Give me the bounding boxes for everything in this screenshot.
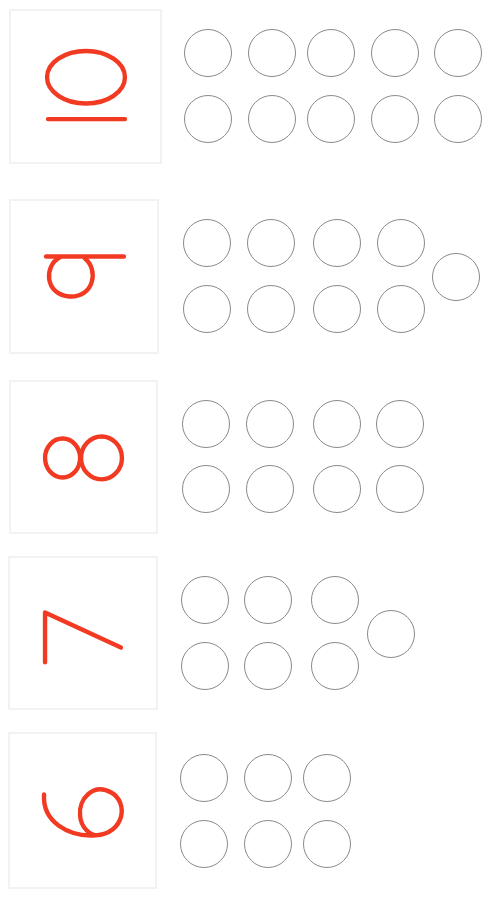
counting-circle (311, 642, 359, 690)
counting-circle (248, 29, 296, 77)
counting-circle (371, 29, 419, 77)
counting-circle (246, 465, 294, 513)
counting-circle (246, 400, 294, 448)
number-card-8: 8 (9, 380, 158, 534)
counting-circle (181, 642, 229, 690)
counting-circle (180, 754, 228, 802)
counting-circle (303, 820, 351, 868)
counting-circle (434, 95, 482, 143)
counting-circle (377, 219, 425, 267)
counting-circle (184, 95, 232, 143)
counting-circle (181, 576, 229, 624)
counting-circle (244, 754, 292, 802)
counting-circle (313, 465, 361, 513)
counting-circle (376, 400, 424, 448)
number-card-9: 9 (9, 199, 159, 354)
counting-circle (247, 285, 295, 333)
number-card-6: 6 (8, 732, 157, 889)
counting-circle (303, 754, 351, 802)
counting-circle (184, 29, 232, 77)
counting-circle (182, 400, 230, 448)
counting-circle (376, 465, 424, 513)
counting-circle (367, 610, 415, 658)
number-card-7: 7 (8, 556, 158, 710)
counting-circle (183, 285, 231, 333)
counting-circle (432, 253, 480, 301)
counting-circle (244, 576, 292, 624)
counting-circle (180, 820, 228, 868)
counting-circle (313, 285, 361, 333)
counting-circle (377, 285, 425, 333)
digit-7-rotated-icon (10, 558, 156, 708)
counting-circle (244, 642, 292, 690)
digit-8-rotated-icon (11, 382, 156, 532)
digit-9-rotated-icon (11, 201, 157, 352)
counting-circle (371, 95, 419, 143)
counting-circle (311, 576, 359, 624)
digit-10-rotated-icon (11, 11, 160, 162)
counting-circle (247, 219, 295, 267)
digit-6-rotated-icon (10, 734, 155, 887)
counting-circle (313, 219, 361, 267)
counting-circle (307, 29, 355, 77)
counting-circle (244, 820, 292, 868)
counting-circle (182, 465, 230, 513)
counting-circle (183, 219, 231, 267)
counting-circle (248, 95, 296, 143)
counting-circle (313, 400, 361, 448)
counting-circle (307, 95, 355, 143)
number-card-10: 10 (9, 9, 162, 164)
counting-circle (434, 29, 482, 77)
